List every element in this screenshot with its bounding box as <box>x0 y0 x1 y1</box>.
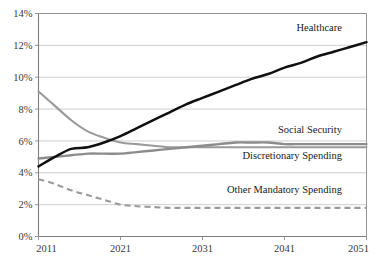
series-label-social-security: Social Security <box>278 124 343 135</box>
line-chart: 14%12%10%8%6%4%2%0% 20112021203120412051… <box>0 0 376 266</box>
series-label-other-mandatory-spending: Other Mandatory Spending <box>227 184 343 195</box>
x-axis-tick-label: 2031 <box>192 243 213 254</box>
gridlines <box>39 14 367 205</box>
y-axis-tick-label: 14% <box>13 8 33 19</box>
x-axis-tick-label: 2041 <box>274 243 295 254</box>
series-annotations: HealthcareSocial SecurityDiscretionary S… <box>227 22 343 195</box>
y-axis-tick-labels: 14%12%10%8%6%4%2%0% <box>13 8 33 242</box>
y-axis-tick-label: 10% <box>13 72 33 83</box>
series-label-healthcare: Healthcare <box>296 22 342 33</box>
x-axis-tick-label: 2021 <box>110 243 131 254</box>
x-axis-tick-label: 2011 <box>36 243 57 254</box>
y-axis-tick-label: 2% <box>19 199 33 210</box>
y-axis-tick-label: 6% <box>19 136 33 147</box>
series-line-discretionary-spending <box>39 92 367 148</box>
y-axis-tick-label: 12% <box>13 40 33 51</box>
chart-container: 14%12%10%8%6%4%2%0% 20112021203120412051… <box>0 0 376 266</box>
y-axis-tick-label: 0% <box>19 231 33 242</box>
y-axis-tick-label: 8% <box>19 104 33 115</box>
y-axis-tick-label: 4% <box>19 167 33 178</box>
series-label-discretionary-spending: Discretionary Spending <box>242 150 342 161</box>
x-axis-tick-label: 2051 <box>348 243 369 254</box>
x-axis-tick-labels: 20112021203120412051 <box>36 243 369 254</box>
